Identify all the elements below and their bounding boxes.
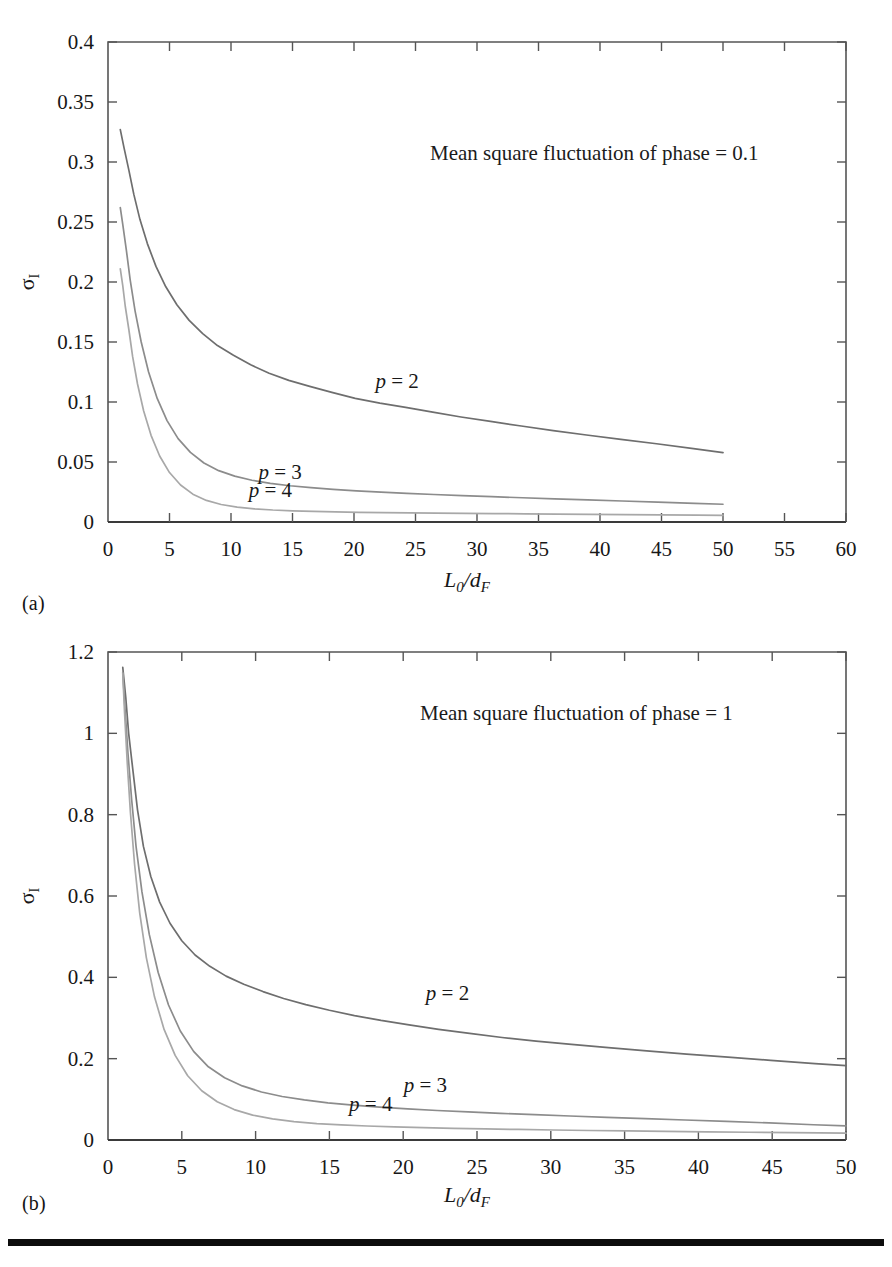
- series-line-p4: [120, 269, 723, 515]
- series-line-p4: [123, 673, 846, 1133]
- x-axis-title: L0/dF: [443, 1182, 491, 1210]
- x-tick-label: 0: [103, 537, 114, 561]
- y-tick-label: 0.4: [68, 965, 95, 989]
- x-tick-label: 40: [590, 537, 611, 561]
- x-tick-label: 5: [177, 1155, 188, 1179]
- figure-container: 05101520253035404550556000.050.10.150.20…: [0, 0, 892, 1267]
- x-tick-label: 55: [774, 537, 795, 561]
- x-axis-ticks: 051015202530354045505560: [103, 42, 857, 561]
- x-tick-label: 35: [614, 1155, 635, 1179]
- y-tick-label: 0.15: [57, 330, 94, 354]
- x-tick-label: 0: [103, 1155, 114, 1179]
- series-line-p3: [120, 208, 723, 505]
- x-tick-label: 60: [836, 537, 857, 561]
- series-label-p2: p = 2: [424, 981, 469, 1005]
- x-tick-label: 40: [688, 1155, 709, 1179]
- series-line-p2: [123, 667, 846, 1065]
- x-tick-label: 50: [713, 537, 734, 561]
- x-axis-title: L0/dF: [443, 567, 491, 595]
- svg-text:σI: σI: [14, 887, 42, 904]
- plot-frame: [108, 652, 846, 1140]
- x-tick-label: 30: [467, 537, 488, 561]
- chart-svg-a: 05101520253035404550556000.050.10.150.20…: [0, 0, 892, 600]
- plot-frame: [108, 42, 846, 522]
- y-tick-label: 0.3: [68, 150, 94, 174]
- x-tick-label: 20: [344, 537, 365, 561]
- y-tick-label: 0: [84, 1128, 95, 1152]
- y-axis-ticks: 00.050.10.150.20.250.30.350.4: [57, 30, 846, 534]
- x-tick-label: 15: [282, 537, 303, 561]
- y-tick-label: 0.1: [68, 390, 94, 414]
- y-tick-label: 0.4: [68, 30, 95, 54]
- x-tick-label: 45: [651, 537, 672, 561]
- x-tick-label: 50: [836, 1155, 857, 1179]
- y-axis-title: σI: [14, 887, 42, 904]
- x-tick-label: 45: [762, 1155, 783, 1179]
- x-tick-label: 25: [467, 1155, 488, 1179]
- y-tick-label: 1: [84, 721, 95, 745]
- x-tick-label: 10: [245, 1155, 266, 1179]
- svg-text:σI: σI: [14, 273, 42, 290]
- y-tick-label: 0.25: [57, 210, 94, 234]
- chart-annotation: Mean square fluctuation of phase = 1: [420, 701, 733, 725]
- series-label-p4: p = 4: [347, 1092, 393, 1116]
- chart-panel-a: 05101520253035404550556000.050.10.150.20…: [0, 0, 892, 600]
- bottom-divider-rule: [8, 1239, 884, 1246]
- series-label-p4: p = 4: [247, 478, 293, 502]
- x-tick-label: 20: [393, 1155, 414, 1179]
- series-line-p2: [120, 130, 723, 453]
- y-tick-label: 0.35: [57, 90, 94, 114]
- y-tick-label: 0.2: [68, 270, 94, 294]
- y-tick-label: 1.2: [68, 640, 94, 664]
- chart-panel-b: 0510152025303540455000.20.40.60.811.2σIL…: [0, 600, 892, 1220]
- x-tick-label: 25: [405, 537, 426, 561]
- x-tick-label: 10: [221, 537, 242, 561]
- x-tick-label: 30: [540, 1155, 561, 1179]
- chart-annotation: Mean square fluctuation of phase = 0.1: [430, 141, 759, 165]
- series-label-p2: p = 2: [373, 369, 418, 393]
- panel-caption-b: (b): [22, 1192, 46, 1215]
- y-tick-label: 0.2: [68, 1047, 94, 1071]
- y-tick-label: 0.05: [57, 450, 94, 474]
- y-tick-label: 0.6: [68, 884, 94, 908]
- series-label-p3: p = 3: [402, 1073, 447, 1097]
- y-axis-title: σI: [14, 273, 42, 290]
- y-tick-label: 0: [84, 510, 95, 534]
- chart-svg-b: 0510152025303540455000.20.40.60.811.2σIL…: [0, 600, 892, 1220]
- x-tick-label: 35: [528, 537, 549, 561]
- y-tick-label: 0.8: [68, 803, 94, 827]
- x-tick-label: 5: [164, 537, 175, 561]
- x-tick-label: 15: [319, 1155, 340, 1179]
